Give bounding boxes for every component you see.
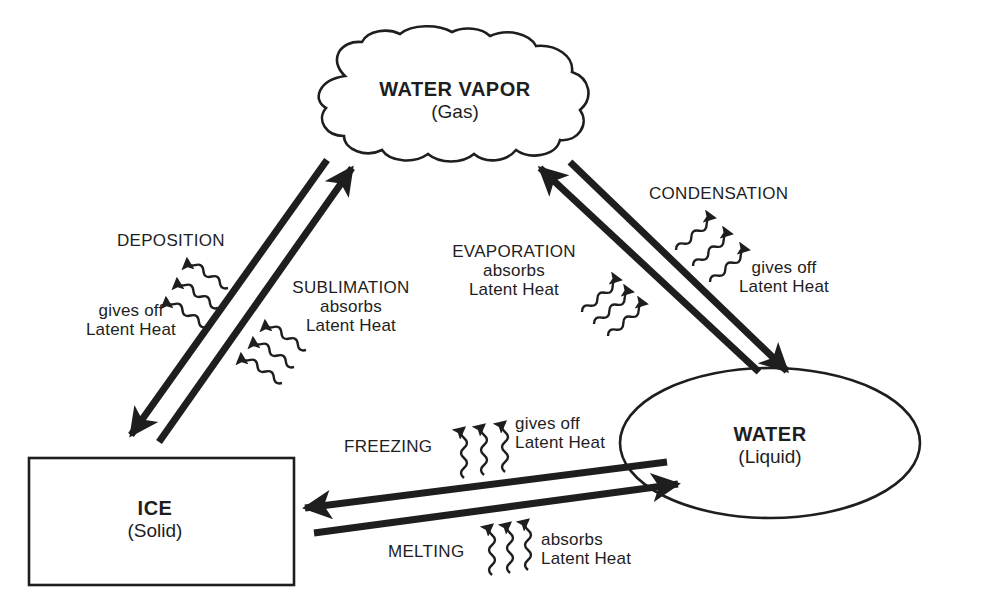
freezing-heat-line1: gives off [515, 414, 605, 433]
deposition-heat-note: gives off Latent Heat [78, 301, 184, 339]
sublimation-heat-line2: Latent Heat [277, 316, 425, 335]
evaporation-heat-line1: absorbs [449, 261, 579, 280]
condensation-heat-line1: gives off [728, 258, 840, 277]
freezing-label: FREEZING [344, 437, 432, 456]
sublimation-heat-line1: absorbs [277, 297, 425, 316]
melting-arrow [314, 484, 678, 533]
ice-state: (Solid) [80, 520, 230, 542]
vapor-title: WATER VAPOR [340, 78, 570, 101]
freezing-heat-note: gives off Latent Heat [515, 414, 605, 452]
sublimation-label: SUBLIMATION [277, 278, 425, 297]
vapor-state: (Gas) [340, 101, 570, 123]
phase-change-diagram: WATER VAPOR (Gas) WATER (Liquid) ICE (So… [0, 0, 994, 614]
freezing-arrow [305, 462, 667, 508]
melting-heat-line1: absorbs [541, 530, 631, 549]
evaporation-heat-line2: Latent Heat [449, 280, 579, 299]
evaporation-label: EVAPORATION [449, 242, 579, 261]
melting-heat-line2: Latent Heat [541, 549, 631, 568]
condensation-heat-line2: Latent Heat [728, 277, 840, 296]
melting-label: MELTING [388, 542, 464, 561]
water-node: WATER (Liquid) [690, 423, 850, 468]
evaporation-heat-waves-icon [580, 278, 648, 339]
sublimation-note: SUBLIMATION absorbs Latent Heat [277, 278, 425, 335]
freezing-heat-waves-icon [461, 422, 508, 478]
water-title: WATER [690, 423, 850, 446]
freezing-heat-line2: Latent Heat [515, 433, 605, 452]
evaporation-note: EVAPORATION absorbs Latent Heat [449, 242, 579, 299]
condensation-label: CONDENSATION [649, 184, 788, 203]
water-state: (Liquid) [690, 446, 850, 468]
deposition-heat-line2: Latent Heat [78, 320, 184, 339]
melting-heat-note: absorbs Latent Heat [541, 530, 631, 568]
deposition-heat-line1: gives off [78, 301, 184, 320]
vapor-node: WATER VAPOR (Gas) [340, 78, 570, 123]
ice-node: ICE (Solid) [80, 497, 230, 542]
condensation-heat-note: gives off Latent Heat [728, 258, 840, 296]
melting-heat-waves-icon [489, 520, 531, 575]
deposition-label: DEPOSITION [117, 231, 225, 250]
ice-title: ICE [80, 497, 230, 520]
